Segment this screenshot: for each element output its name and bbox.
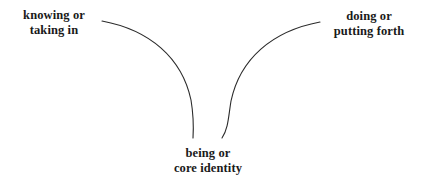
label-left-line2: taking in: [6, 23, 102, 38]
label-right-line1: doing or: [318, 9, 420, 24]
left-curve: [102, 21, 193, 138]
label-left-line1: knowing or: [6, 8, 102, 23]
label-being-or-core-identity: being or core identity: [152, 146, 264, 175]
label-doing-or-putting-forth: doing or putting forth: [318, 9, 420, 38]
label-right-line2: putting forth: [318, 24, 420, 39]
label-knowing-or-taking-in: knowing or taking in: [6, 8, 102, 37]
label-bottom-line2: core identity: [152, 161, 264, 176]
right-curve: [222, 22, 320, 138]
diagram-canvas: knowing or taking in doing or putting fo…: [0, 0, 425, 189]
label-bottom-line1: being or: [152, 146, 264, 161]
